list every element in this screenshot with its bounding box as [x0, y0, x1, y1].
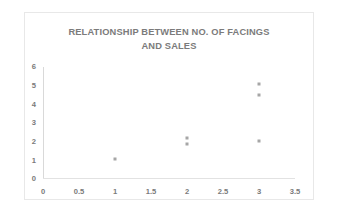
data-point: [258, 94, 261, 97]
y-tick-label: 4: [32, 101, 36, 109]
y-tick-label: 1: [32, 157, 36, 165]
x-tick-label: 2.5: [218, 188, 229, 196]
chart-title: RELATIONSHIP BETWEEN NO. OF FACINGS AND …: [25, 25, 313, 53]
y-tick-label: 3: [32, 119, 36, 127]
data-point: [186, 143, 189, 146]
y-tick-label: 5: [32, 82, 36, 90]
data-point: [186, 136, 189, 139]
y-tick-label: 2: [32, 138, 36, 146]
plot-area: 0123456 00.511.522.533.5: [43, 67, 295, 179]
data-point: [258, 139, 261, 142]
y-tick-label: 0: [32, 175, 36, 183]
x-tick-label: 2: [185, 188, 189, 196]
chart-container: RELATIONSHIP BETWEEN NO. OF FACINGS AND …: [24, 12, 314, 200]
y-tick-label: 6: [32, 63, 36, 71]
y-axis-line: [43, 67, 44, 179]
x-tick-label: 1: [113, 188, 117, 196]
x-tick-label: 3.5: [290, 188, 301, 196]
x-tick-label: 1.5: [146, 188, 157, 196]
data-point: [114, 158, 117, 161]
x-axis-line: [43, 178, 295, 179]
data-point: [258, 82, 261, 85]
x-tick-label: 3: [257, 188, 261, 196]
x-tick-label: 0.5: [74, 188, 85, 196]
x-tick-label: 0: [41, 188, 45, 196]
